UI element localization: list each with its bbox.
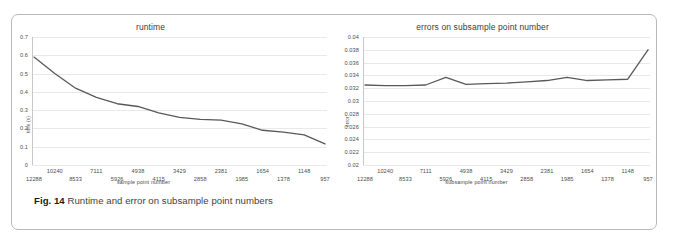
x-axis-tick: 1148 <box>622 168 634 174</box>
y-axis-tick: 0.03 <box>348 98 359 104</box>
y-axis-tick: 0.038 <box>345 47 360 53</box>
x-axis-tick: 10240 <box>377 168 393 174</box>
chart-panel-errors: errors on subsample point number error 0… <box>335 15 658 191</box>
chart-title-runtime: runtime <box>12 22 335 32</box>
y-axis-tick: 0.022 <box>345 149 360 155</box>
y-axis-tick: 0 <box>25 162 28 168</box>
y-axis-tick: 0.02 <box>348 162 359 168</box>
chart-panel-runtime: runtime time (s) 00.10.20.30.40.50.60.71… <box>12 15 335 191</box>
x-axis-tick: 2381 <box>215 168 228 174</box>
figure-caption-number: Fig. 14 <box>34 195 65 206</box>
x-axis-label-runtime: sample point number <box>12 179 335 185</box>
x-axis-tick: 3429 <box>173 168 186 174</box>
figure-caption: Fig. 14 Runtime and error on subsample p… <box>34 195 273 206</box>
y-axis-tick: 0.7 <box>20 34 28 40</box>
y-axis-tick: 0.024 <box>345 136 360 142</box>
y-axis-tick: 0.026 <box>345 124 360 130</box>
y-axis-tick: 0.3 <box>20 107 28 113</box>
series-line <box>34 57 325 144</box>
data-series-error <box>363 37 650 165</box>
x-axis-label-errors: subsample point number <box>335 179 658 185</box>
y-axis-tick: 0.032 <box>345 85 360 91</box>
x-axis-tick: 10240 <box>47 168 63 174</box>
x-axis-tick: 3429 <box>500 168 513 174</box>
figure-container: runtime time (s) 00.10.20.30.40.50.60.71… <box>11 14 657 230</box>
x-axis-tick: 4938 <box>131 168 144 174</box>
y-axis-tick: 0.2 <box>20 125 28 131</box>
plot-area-errors: 0.020.0220.0240.0260.0280.030.0320.0340.… <box>363 37 650 165</box>
x-axis-tick: 1148 <box>298 168 310 174</box>
x-axis-tick: 2381 <box>540 168 553 174</box>
figure-caption-text: Runtime and error on subsample point num… <box>67 195 272 206</box>
plot-area-runtime: 00.10.20.30.40.50.60.7122881024085337111… <box>32 37 327 165</box>
x-axis-tick: 7111 <box>90 168 102 174</box>
x-axis-tick: 4938 <box>460 168 473 174</box>
charts-row: runtime time (s) 00.10.20.30.40.50.60.71… <box>12 15 658 191</box>
series-line <box>365 50 648 86</box>
gridline <box>32 165 327 166</box>
y-axis-tick: 0.028 <box>345 111 360 117</box>
y-axis-tick: 0.5 <box>20 71 28 77</box>
y-axis-tick: 0.4 <box>20 89 28 95</box>
y-axis-tick: 0.04 <box>348 34 359 40</box>
chart-title-errors: errors on subsample point number <box>335 22 658 32</box>
x-axis-tick: 7111 <box>420 168 432 174</box>
y-axis-tick: 0.036 <box>345 60 360 66</box>
y-axis-tick: 0.1 <box>20 144 28 150</box>
y-axis-tick: 0.034 <box>345 72 360 78</box>
x-axis-tick: 1654 <box>581 168 594 174</box>
x-axis-tick: 1654 <box>256 168 269 174</box>
y-axis-tick: 0.6 <box>20 52 28 58</box>
gridline <box>363 165 650 166</box>
data-series-runtime <box>32 37 327 165</box>
